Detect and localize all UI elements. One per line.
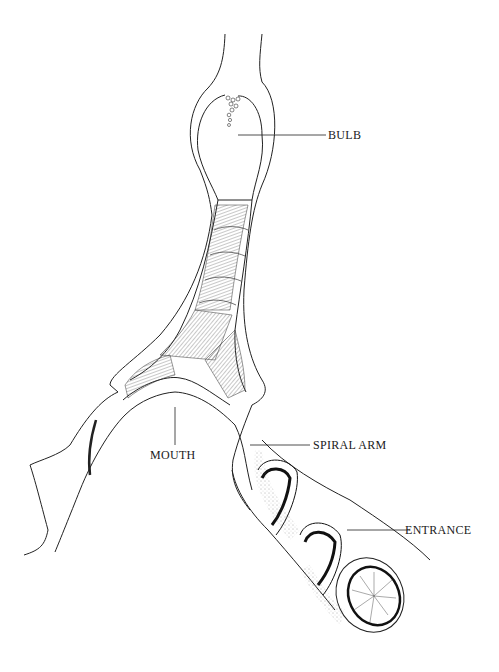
spiral-rings [258,460,341,595]
label-spiral-arm: SPIRAL ARM [313,439,387,451]
label-mouth: MOUTH [150,449,196,461]
label-entrance: ENTRANCE [405,524,471,536]
top-tube-right [260,34,262,82]
top-tube-left [208,34,225,88]
left-arm [24,392,118,555]
label-bulb: BULB [328,129,361,141]
bulb-granules [226,96,240,127]
spiral-arm [232,405,252,510]
illustration [0,0,499,672]
entrance-opening [324,547,416,644]
